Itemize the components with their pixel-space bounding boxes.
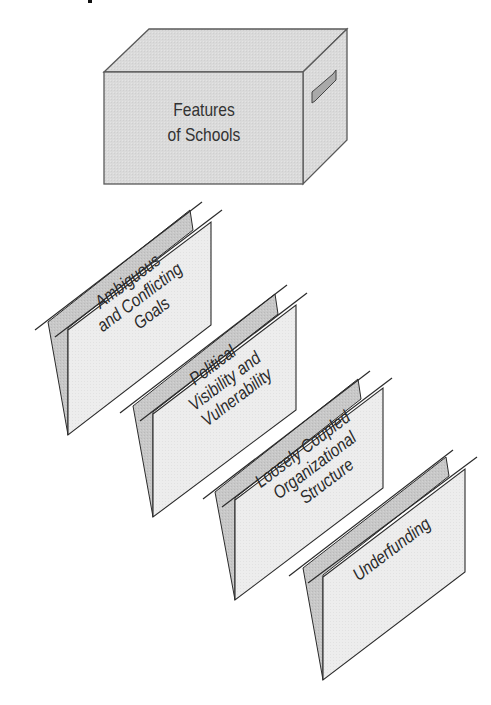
box-label: Features of Schools — [147, 98, 262, 147]
box-label-line-1: Features — [147, 98, 262, 123]
box-label-line-2: of Schools — [147, 123, 262, 148]
